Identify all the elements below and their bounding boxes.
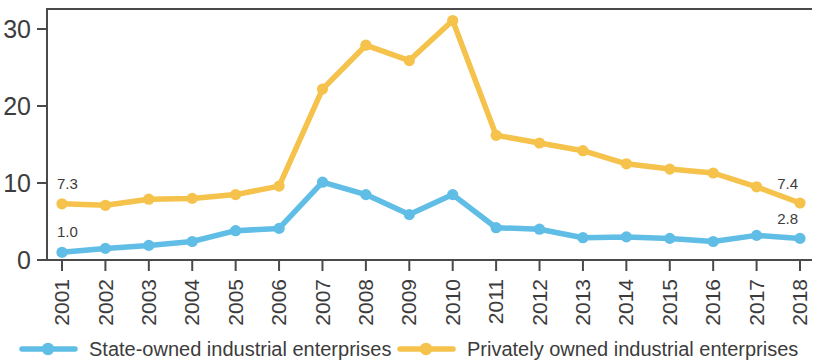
x-tick-label: 2004 — [180, 279, 203, 326]
x-tick-label: 2013 — [571, 279, 594, 326]
series-data-point — [534, 137, 545, 148]
series-data-point — [230, 189, 241, 200]
series-data-point — [447, 15, 458, 26]
legend-item-label: State-owned industrial enterprises — [89, 338, 391, 360]
series-line — [62, 182, 800, 252]
x-tick-label: 2005 — [224, 279, 247, 326]
legend-swatch-marker — [42, 343, 54, 355]
x-tick-label: 2016 — [701, 279, 724, 326]
series-data-point — [708, 167, 719, 178]
x-tick-label: 2002 — [94, 279, 117, 326]
series-data-point — [577, 232, 588, 243]
series-data-point — [794, 197, 805, 208]
series-data-point — [317, 84, 328, 95]
y-axis: 0102030 — [3, 15, 47, 274]
series-data-point — [491, 130, 502, 141]
series-data-point — [360, 189, 371, 200]
x-tick-label: 2007 — [311, 279, 334, 326]
series-data-point — [187, 193, 198, 204]
series-data-point — [274, 181, 285, 192]
y-tick-label: 10 — [3, 169, 31, 197]
x-tick-label: 2015 — [658, 279, 681, 326]
series-data-point — [187, 236, 198, 247]
series-end-value-label: 7.4 — [777, 175, 798, 192]
line-chart-figure: 0102030 20012002200320042005200620072008… — [0, 0, 819, 364]
x-tick-label: 2009 — [397, 279, 420, 326]
series-data-point — [794, 233, 805, 244]
x-axis: 2001200220032004200520062007200820092010… — [50, 260, 811, 326]
series-data-point — [708, 236, 719, 247]
axis-frame — [47, 8, 812, 260]
series-start-value-label: 7.3 — [57, 175, 78, 192]
chart-series-group — [56, 15, 805, 258]
series-data-point — [664, 233, 675, 244]
x-tick-label: 2008 — [354, 279, 377, 326]
chart-svg: 0102030 20012002200320042005200620072008… — [0, 0, 819, 364]
legend-swatch-marker — [420, 343, 432, 355]
series-data-point — [274, 223, 285, 234]
series-data-point — [404, 55, 415, 66]
series-data-point — [621, 231, 632, 242]
chart-axes — [47, 8, 812, 260]
series-data-point — [577, 145, 588, 156]
x-tick-label: 2018 — [788, 279, 811, 326]
y-tick-label: 0 — [17, 246, 31, 274]
series-data-point — [664, 164, 675, 175]
x-tick-label: 2001 — [50, 279, 73, 326]
series-data-point — [404, 209, 415, 220]
x-tick-label: 2006 — [267, 279, 290, 326]
series-data-point — [360, 40, 371, 51]
series-data-point — [143, 194, 154, 205]
series-data-point — [751, 230, 762, 241]
series-data-point — [230, 225, 241, 236]
series-data-point — [56, 247, 67, 258]
y-tick-label: 30 — [3, 15, 31, 43]
series-data-point — [317, 177, 328, 188]
x-tick-label: 2003 — [137, 279, 160, 326]
series-data-point — [56, 198, 67, 209]
series-end-value-label: 2.8 — [777, 210, 798, 227]
series-data-point — [100, 243, 111, 254]
series-data-point — [621, 158, 632, 169]
series-start-value-label: 1.0 — [57, 223, 78, 240]
series-data-point — [534, 224, 545, 235]
series-data-point — [100, 200, 111, 211]
chart-legend: State-owned industrial enterprisesPrivat… — [22, 338, 798, 360]
series-line — [62, 21, 800, 206]
y-tick-label: 20 — [3, 92, 31, 120]
series-data-point — [143, 240, 154, 251]
x-tick-label: 2011 — [484, 279, 507, 324]
legend-item[interactable]: Privately owned industrial enterprises — [400, 338, 798, 360]
legend-item-label: Privately owned industrial enterprises — [467, 338, 798, 360]
legend-item[interactable]: State-owned industrial enterprises — [22, 338, 391, 360]
x-tick-label: 2010 — [441, 279, 464, 326]
x-tick-label: 2014 — [614, 279, 637, 326]
x-tick-label: 2012 — [528, 279, 551, 326]
series-data-point — [447, 189, 458, 200]
series-data-point — [491, 222, 502, 233]
series-data-point — [751, 181, 762, 192]
x-tick-label: 2017 — [745, 279, 768, 326]
